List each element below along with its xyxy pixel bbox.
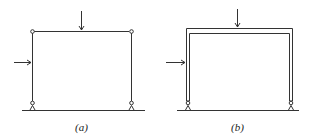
horizontal-load-arrow-a: [14, 60, 31, 65]
vertical-load-arrow-b: [235, 9, 240, 27]
frames-diagram: [0, 0, 310, 139]
frame-a: [14, 11, 145, 111]
pin-joint-top-right-a: [130, 30, 134, 34]
pin-joint-top-left-a: [31, 30, 35, 34]
roller-support-left-b: [186, 101, 191, 110]
caption-a: (a): [75, 121, 88, 133]
rigid-frame-inner-b: [190, 34, 290, 102]
frame-b: [166, 9, 299, 111]
roller-support-right-a: [129, 101, 134, 110]
roller-support-right-b: [289, 101, 294, 110]
caption-b: (b): [231, 121, 244, 133]
rigid-frame-outer-b: [187, 29, 293, 102]
horizontal-load-arrow-b: [166, 60, 185, 65]
vertical-load-arrow-a: [79, 11, 84, 30]
roller-support-left-a: [30, 101, 35, 110]
